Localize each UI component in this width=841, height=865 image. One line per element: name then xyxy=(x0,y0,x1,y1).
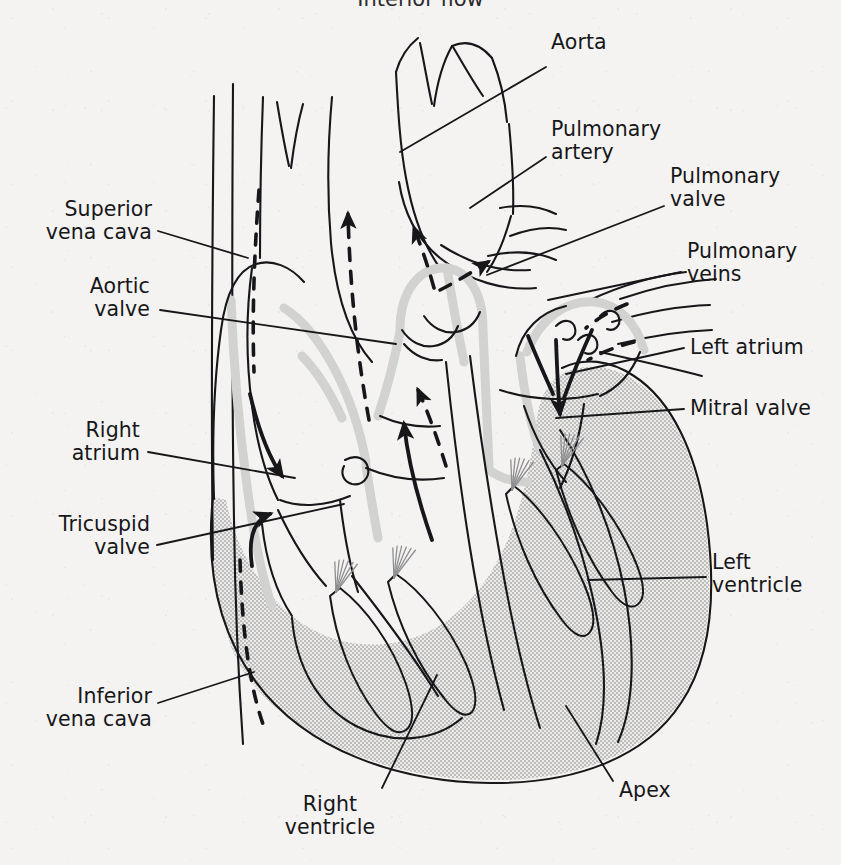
myocardium-shading xyxy=(211,367,710,780)
label-left-ventricle: Left ventricle xyxy=(712,551,802,597)
arrow-lv-to-aortic-valve xyxy=(404,424,432,540)
arrow-rv-to-pulm-valve xyxy=(418,390,446,466)
label-superior-vena-cava: Superior vena cava xyxy=(0,198,152,244)
label-aortic-valve: Aortic valve xyxy=(0,275,150,321)
leader-pulmonary-valve xyxy=(487,206,664,275)
label-aorta: Aorta xyxy=(551,31,607,54)
tricuspid-leaflet-a xyxy=(278,510,326,586)
tricuspid-leaflet-b xyxy=(340,500,358,592)
leader-right-atrium xyxy=(148,452,295,478)
leader-pulmonary-veins xyxy=(548,272,681,300)
arrow-aorta-outflow xyxy=(348,214,369,420)
label-right-ventricle: Right ventricle xyxy=(254,793,406,839)
arrow-la-to-lv-left xyxy=(528,336,553,394)
label-pulmonary-artery: Pulmonary artery xyxy=(551,118,661,164)
label-left-atrium: Left atrium xyxy=(690,336,804,359)
label-inferior-vena-cava: Inferior vena cava xyxy=(0,685,152,731)
aortic-valve-cusps xyxy=(402,326,458,346)
label-mitral-valve: Mitral valve xyxy=(690,397,811,420)
label-pulmonary-valve: Pulmonary valve xyxy=(670,165,780,211)
label-right-atrium: Right atrium xyxy=(0,419,140,465)
leader-aortic-valve xyxy=(160,310,396,344)
label-apex: Apex xyxy=(619,779,671,802)
figure-page: Interior flow xyxy=(0,0,841,865)
leader-pulmonary-artery xyxy=(470,157,546,208)
superior-vena-cava-outline xyxy=(260,97,263,258)
arrow-svc-to-right-atrium xyxy=(250,394,282,476)
label-pulmonary-veins: Pulmonary veins xyxy=(687,240,797,286)
leader-superior-vena-cava xyxy=(158,231,248,258)
label-tricuspid-valve: Tricuspid valve xyxy=(0,513,150,559)
